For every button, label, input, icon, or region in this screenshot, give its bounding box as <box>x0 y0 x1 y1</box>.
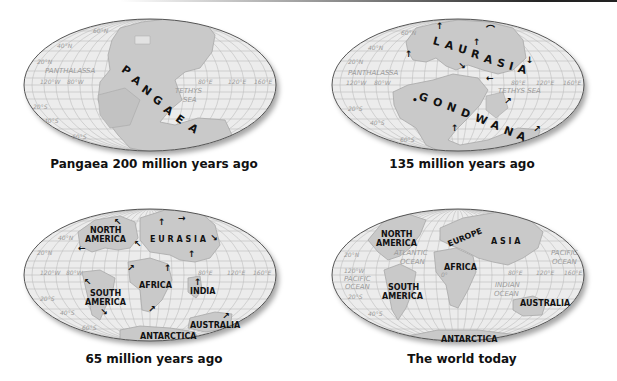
caption-today: The world today <box>308 352 616 366</box>
grid-label-20s: 20°S <box>348 294 362 300</box>
grid-label-120e: 120°E <box>536 270 554 276</box>
movement-arrow-icon: • <box>412 96 418 105</box>
grid-label-120w: 120°W <box>346 80 366 86</box>
label-south-america-2: AMERICA <box>382 293 423 301</box>
movement-arrow-icon: ↗ <box>533 125 541 134</box>
grid-label-60s: 60°S <box>82 325 96 331</box>
movement-arrow-icon: ↗ <box>148 305 156 314</box>
grid-label-40s: 40°S <box>60 310 74 316</box>
ocean-label-panthalassa: PANTHALASSA <box>45 68 95 75</box>
map-panel-today: 20°N 120°W PACIFIC OCEAN 20°S 40°S ATLAN… <box>308 190 616 380</box>
movement-arrow-icon: ↓ <box>526 56 534 65</box>
movement-arrow-icon: ← <box>78 244 86 253</box>
grid-label-20s: 20°S <box>33 104 47 110</box>
grid-label-80e: 80°E <box>508 270 522 276</box>
movement-arrow-icon: ↑ <box>188 250 196 259</box>
grid-label-60n: 60°N <box>93 28 108 34</box>
caption-135mya: 135 million years ago <box>308 157 616 171</box>
grid-label-80w: 80°W <box>374 80 391 86</box>
ocean-label-pacific-west-1: PACIFIC <box>344 276 371 283</box>
grid-label-60s: 60°S <box>72 134 86 140</box>
ocean-label-pacific-west-2: OCEAN <box>345 284 370 291</box>
label-australia: AUSTRALIA <box>190 322 240 330</box>
label-north-america-2: AMERICA <box>85 236 126 244</box>
grid-label-120e: 120°E <box>536 80 554 86</box>
grid-label-160e: 160°E <box>563 80 581 86</box>
grid-label-160e: 160°E <box>253 270 271 276</box>
movement-arrow-icon: ↗ <box>127 264 135 273</box>
ocean-label-panthalassa: PANTHALASSA <box>348 70 398 77</box>
movement-arrow-icon: ↑ <box>164 264 172 273</box>
grid-label-40s: 40°S <box>370 120 384 126</box>
grid-label-40n: 40°N <box>368 45 383 51</box>
ocean-label-tethys: TETHYS <box>175 88 202 95</box>
label-north-america-1: NORTH <box>90 227 121 235</box>
label-antarctica: ANTARCTICA <box>140 333 196 341</box>
movement-arrow-icon: ↑ <box>158 218 166 227</box>
ocean-label-atlantic-1: ATLANTIC <box>394 250 428 257</box>
grid-label-80w: 80°W <box>67 79 84 85</box>
pangaea-map <box>0 0 308 170</box>
movement-arrow-icon: ↑ <box>473 38 481 47</box>
label-north-america-2: AMERICA <box>376 240 417 248</box>
movement-arrow-icon: ↗ <box>504 97 512 106</box>
grid-label-120w: 120°W <box>344 268 364 274</box>
grid-label-60n: 60°N <box>401 30 416 36</box>
grid-label-120e: 120°E <box>228 79 246 85</box>
ocean-label-tethys-sea: TETHYS SEA <box>498 88 541 95</box>
movement-arrow-icon: ↖ <box>134 240 142 249</box>
grid-label-80e: 80°E <box>198 79 212 85</box>
movement-arrow-icon: ↑ <box>194 278 202 287</box>
grid-label-160e: 160°E <box>254 79 272 85</box>
grid-label-120e: 120°E <box>227 270 245 276</box>
grid-label-80w: 80°W <box>66 270 83 276</box>
ocean-label-pacific-east-1: PACIFIC <box>551 250 578 257</box>
grid-label-20s: 20°S <box>40 296 54 302</box>
ocean-label-indian-2: OCEAN <box>494 291 519 298</box>
label-africa: AFRICA <box>139 282 172 290</box>
movement-arrow-icon: ↘ <box>100 308 108 317</box>
label-south-america-1: SOUTH <box>388 284 419 292</box>
grid-label-120w: 120°W <box>40 79 60 85</box>
map-panel-65mya: 40°N 20°N 120°W 80°W 80°E 120°E 160°E 20… <box>0 190 308 380</box>
grid-label-40s: 40°S <box>44 118 58 124</box>
ocean-label-indian-1: INDIAN <box>495 282 520 289</box>
movement-arrow-icon: ↑ <box>436 22 444 31</box>
movement-arrow-icon: ↖ <box>84 278 92 287</box>
map-panel-135mya: 60°N 40°N 20°N PANTHALASSA 120°W 80°W 80… <box>308 0 616 190</box>
grid-label-120w: 120°W <box>40 270 60 276</box>
map-panel-pangaea: 60°N 40°N 20°N PANTHALASSA 120°W 80°W 80… <box>0 0 308 190</box>
grid-label-40n: 40°N <box>57 43 72 49</box>
label-north-america-1: NORTH <box>381 231 412 239</box>
movement-arrow-icon: → <box>178 214 186 223</box>
grid-label-40s: 40°S <box>368 311 382 317</box>
grid-label-20n: 20°N <box>348 59 363 65</box>
grid-label-160e: 160°E <box>564 270 582 276</box>
label-south-america-2: AMERICA <box>85 299 126 307</box>
label-australia: AUSTRALIA <box>520 300 570 308</box>
grid-label-80e: 80°E <box>511 80 525 86</box>
movement-arrow-icon: ↘ <box>210 234 218 243</box>
label-africa: AFRICA <box>444 264 477 272</box>
grid-label-20n: 20°N <box>344 252 359 258</box>
grid-label-20n: 20°N <box>37 59 52 65</box>
movement-arrow-icon: ← <box>486 74 494 83</box>
label-south-america-1: SOUTH <box>90 290 121 298</box>
caption-pangaea: Pangaea 200 million years ago <box>0 157 308 171</box>
label-india: INDIA <box>190 288 215 296</box>
grid-label-80e: 80°E <box>198 270 212 276</box>
grid-label-20n: 20°N <box>37 250 52 256</box>
movement-arrow-icon: ↖ <box>114 218 122 227</box>
grid-label-20s: 20°S <box>348 106 362 112</box>
label-asia: A S I A <box>491 238 520 246</box>
movement-arrow-icon: ↑ <box>451 124 459 133</box>
movement-arrow-icon: ↘ <box>458 62 466 71</box>
grid-label-40n: 40°N <box>58 235 73 241</box>
movement-arrow-icon: ⌒ <box>486 26 495 35</box>
movement-arrow-icon: ↑ <box>405 50 413 59</box>
label-antarctica: ANTARCTICA <box>441 336 497 344</box>
ocean-label-sea: SEA <box>183 97 197 104</box>
ocean-label-pacific-east-2: OCEAN <box>552 259 577 266</box>
caption-65mya: 65 million years ago <box>0 352 308 366</box>
grid-label-0: 0° <box>441 272 448 278</box>
